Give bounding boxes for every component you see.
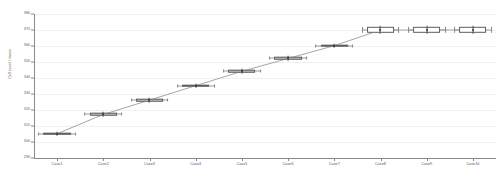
x-axis-tick-label: Case3 xyxy=(144,162,155,166)
whisker-cap xyxy=(269,57,270,60)
x-axis-tick-label: Case6 xyxy=(283,162,294,166)
box-plot xyxy=(408,18,446,42)
whisker-cap xyxy=(121,113,122,116)
mean-marker xyxy=(472,29,474,31)
x-axis-tick-label: Case4 xyxy=(190,162,201,166)
mean-marker xyxy=(333,45,335,47)
x-axis-tick xyxy=(103,158,104,161)
x-axis-tick-label: Case8 xyxy=(375,162,386,166)
box-plot xyxy=(38,122,76,146)
whisker-cap xyxy=(260,70,261,73)
y-axis-line xyxy=(34,14,35,158)
x-axis-tick-label: Case7 xyxy=(329,162,340,166)
box-plot xyxy=(131,88,169,112)
y-axis-tick xyxy=(31,126,34,127)
whisker-cap xyxy=(454,27,455,33)
y-axis-tick-label: 290 xyxy=(10,156,30,160)
x-axis-tick xyxy=(473,158,474,161)
y-axis-tick-label: 330 xyxy=(10,92,30,96)
boxplot-chart: Cell count / mean 3803703603503403303203… xyxy=(0,0,503,180)
whisker-cap xyxy=(398,27,399,33)
box-plot xyxy=(362,18,400,42)
y-axis-tick-label: 340 xyxy=(10,76,30,80)
whisker-cap xyxy=(491,27,492,33)
whisker-cap xyxy=(75,132,76,135)
y-axis-tick-label: 320 xyxy=(10,108,30,112)
y-axis-tick-label: 380 xyxy=(10,12,30,16)
y-axis-tick-labels: 380370360350340330320310300290 xyxy=(9,0,30,180)
mean-marker xyxy=(149,99,151,101)
whisker-cap xyxy=(131,99,132,102)
y-axis-tick xyxy=(31,94,34,95)
whisker-cap xyxy=(38,132,39,135)
box-plot xyxy=(223,59,261,83)
whisker-cap xyxy=(306,57,307,60)
y-axis-tick xyxy=(31,110,34,111)
x-axis-tick-label: Case10 xyxy=(466,162,479,166)
y-axis-tick xyxy=(31,142,34,143)
x-axis-tick xyxy=(288,158,289,161)
y-axis-tick xyxy=(31,46,34,47)
x-axis-tick xyxy=(381,158,382,161)
x-axis-tick xyxy=(196,158,197,161)
box-plot xyxy=(454,18,492,42)
whisker-cap xyxy=(223,70,224,73)
x-axis-tick xyxy=(334,158,335,161)
mean-marker xyxy=(287,57,289,59)
box-plot xyxy=(177,74,215,98)
whisker-cap xyxy=(214,84,215,87)
mean-marker xyxy=(56,133,58,135)
whisker-cap xyxy=(408,27,409,33)
y-axis-tick xyxy=(31,158,34,159)
mean-marker xyxy=(426,29,428,31)
whisker-cap xyxy=(315,44,316,47)
box-plot xyxy=(315,34,353,58)
x-axis-tick-label: Case2 xyxy=(98,162,109,166)
y-axis-tick-label: 310 xyxy=(10,124,30,128)
y-axis-tick-label: 300 xyxy=(10,140,30,144)
x-axis-tick-label: Case5 xyxy=(236,162,247,166)
y-axis-tick xyxy=(31,30,34,31)
whisker-cap xyxy=(445,27,446,33)
y-axis-tick-label: 350 xyxy=(10,60,30,64)
whisker-cap xyxy=(167,99,168,102)
box-plot xyxy=(269,46,307,70)
mean-marker xyxy=(380,29,382,31)
x-axis-tick xyxy=(242,158,243,161)
x-axis-tick-label: Case1 xyxy=(52,162,63,166)
y-axis-tick xyxy=(31,78,34,79)
plot-area: Case1Case2Case3Case4Case5Case6Case7Case8… xyxy=(34,14,496,158)
whisker-cap xyxy=(84,113,85,116)
y-axis-tick-label: 360 xyxy=(10,44,30,48)
whisker-cap xyxy=(362,27,363,33)
y-axis-tick xyxy=(31,62,34,63)
x-axis-tick xyxy=(427,158,428,161)
whisker-cap xyxy=(177,84,178,87)
x-axis-tick xyxy=(57,158,58,161)
mean-marker xyxy=(195,85,197,87)
mean-marker xyxy=(241,70,243,72)
y-axis-tick-label: 370 xyxy=(10,28,30,32)
x-axis-tick xyxy=(150,158,151,161)
whisker-cap xyxy=(352,44,353,47)
x-axis-tick-label: Case9 xyxy=(421,162,432,166)
box-plot xyxy=(84,102,122,126)
y-axis-tick xyxy=(31,14,34,15)
mean-marker xyxy=(102,113,104,115)
